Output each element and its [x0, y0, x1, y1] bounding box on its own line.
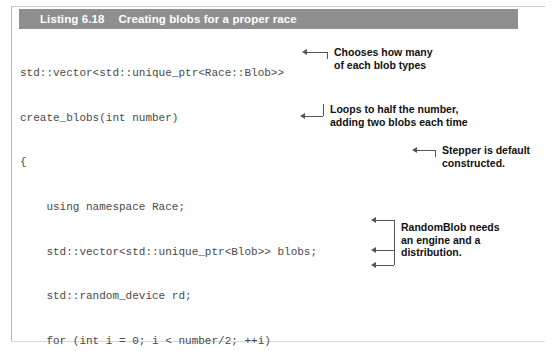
- figure-top-rule: [11, 6, 545, 7]
- annotation-stepper-default: Stepper is defaultconstructed.: [442, 144, 530, 169]
- annotation-leader-line: [376, 220, 394, 221]
- annotation-line: an engine and a: [401, 234, 480, 246]
- annotation-leader-line: [435, 150, 436, 157]
- annotation-leader-line: [327, 52, 328, 59]
- annotation-leader-line: [417, 150, 435, 151]
- annotation-line: constructed.: [442, 157, 505, 169]
- code-listing-figure: Listing 6.18 Creating blobs for a proper…: [0, 0, 552, 351]
- annotation-loop-half: Loops to half the number,adding two blob…: [330, 103, 468, 128]
- code-line: std::vector<std::unique_ptr<Blob>> blobs…: [20, 245, 416, 260]
- annotation-chooses-count: Chooses how manyof each blob types: [334, 46, 433, 71]
- annotation-leader-line: [323, 104, 324, 116]
- annotation-line: Chooses how many: [334, 46, 433, 58]
- listing-number: Listing 6.18: [40, 13, 104, 25]
- annotation-line: Loops to half the number,: [330, 103, 458, 115]
- code-block: std::vector<std::unique_ptr<Race::Blob>>…: [20, 36, 416, 351]
- annotation-line: Stepper is default: [442, 144, 530, 156]
- annotation-line: RandomBlob needs: [401, 221, 500, 233]
- code-line: {: [20, 155, 416, 170]
- listing-caption-bar: Listing 6.18 Creating blobs for a proper…: [19, 9, 518, 29]
- code-line: for (int i = 0; i < number/2; ++i): [20, 334, 416, 349]
- annotation-randomblob-needs: RandomBlob needsan engine and adistribut…: [401, 221, 500, 259]
- listing-title: Creating blobs for a proper race: [118, 13, 296, 25]
- annotation-line: of each blob types: [334, 59, 426, 71]
- annotation-leader-line: [376, 265, 394, 266]
- annotation-leader-line: [394, 220, 395, 265]
- annotation-line: adding two blobs each time: [330, 116, 468, 128]
- annotation-leader-line: [376, 250, 394, 251]
- figure-left-rule: [11, 6, 12, 342]
- annotation-line: distribution.: [401, 246, 462, 258]
- annotation-leader-line: [305, 116, 323, 117]
- annotation-leader-line: [307, 52, 327, 53]
- code-line: std::random_device rd;: [20, 289, 416, 304]
- code-line: using namespace Race;: [20, 200, 416, 215]
